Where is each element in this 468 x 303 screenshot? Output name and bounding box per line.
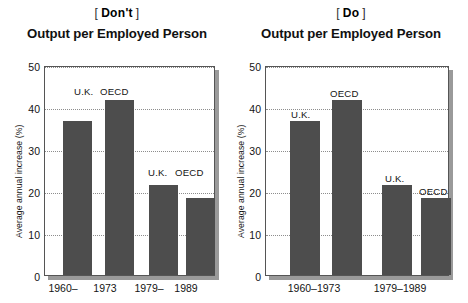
y-tick-0-dont: 0 — [15, 272, 40, 283]
chart-title-do: Output per Employed Person — [234, 26, 468, 41]
panel-dont: [Don't] Output per Employed Person Avera… — [0, 0, 234, 303]
y-axis-title-dont: Average annual increase (%) — [14, 125, 24, 238]
y-tick-10-do: 10 — [236, 230, 261, 241]
bar-shadow — [65, 123, 94, 277]
bar-shadow — [151, 187, 180, 277]
bar-shadow — [423, 200, 453, 277]
tagline-word-dont: Don't — [98, 6, 136, 20]
x-tick-1989-dont: 1989 — [163, 282, 209, 294]
x-tick-1973-dont: 1973 — [82, 282, 128, 294]
series-label-oecd-1979-1989-do: OECD — [419, 186, 448, 197]
series-label-uk-1960-1973-do: U.K. — [291, 109, 310, 120]
y-tick-40-dont: 40 — [15, 104, 40, 115]
bar-shadow — [334, 102, 364, 277]
series-label-uk-group2-dont: U.K. — [148, 167, 167, 178]
bar-shadow — [292, 123, 322, 277]
gridline-50-dont — [45, 67, 214, 68]
chart-title-dont: Output per Employed Person — [0, 26, 234, 41]
bar-shadow — [384, 187, 414, 277]
y-tick-40-do: 40 — [236, 104, 261, 115]
bar-oecd-1979-1989-do — [421, 198, 451, 275]
y-tick-30-do: 30 — [236, 146, 261, 157]
tagline-close-bracket: ] — [362, 6, 366, 20]
y-tick-20-dont: 20 — [15, 188, 40, 199]
bar-shadow — [188, 200, 217, 277]
plot-area-dont: U.K. OECD U.K. OECD — [44, 66, 215, 276]
tagline-close-bracket: ] — [136, 6, 140, 20]
bar-oecd-1960-1973-dont — [105, 100, 134, 275]
panel-do-tagline: [Do] — [234, 6, 468, 20]
y-axis-title-do: Average annual increase (%) — [236, 125, 246, 238]
panel-dont-tagline: [Don't] — [0, 6, 234, 20]
y-tick-50-do: 50 — [236, 62, 261, 73]
x-tick-1960-1973-do: 1960–1973 — [264, 282, 364, 294]
bar-uk-1960-1973-dont — [63, 121, 92, 275]
figure-container: [Don't] Output per Employed Person Avera… — [0, 0, 468, 303]
bar-oecd-1979-1989-dont — [186, 198, 215, 275]
bar-uk-1979-1989-do — [382, 185, 412, 275]
bar-uk-1960-1973-do — [290, 121, 320, 275]
bar-shadow — [107, 102, 136, 277]
series-label-uk-group1-dont: U.K. — [74, 86, 93, 97]
series-label-uk-1979-1989-do: U.K. — [385, 173, 404, 184]
y-tick-50-dont: 50 — [15, 62, 40, 73]
y-tick-0-do: 0 — [236, 272, 261, 283]
x-tick-1979-1989-do: 1979–1989 — [350, 282, 450, 294]
series-label-oecd-group1-dont: OECD — [100, 86, 129, 97]
series-label-oecd-1960-1973-do: OECD — [330, 88, 359, 99]
tagline-word-do: Do — [340, 6, 363, 20]
x-tick-1960-dont: 1960– — [40, 282, 86, 294]
y-tick-10-dont: 10 — [15, 230, 40, 241]
bar-oecd-1960-1973-do — [332, 100, 362, 275]
bar-uk-1979-1989-dont — [149, 185, 178, 275]
gridline-50-do — [266, 67, 448, 68]
y-tick-30-dont: 30 — [15, 146, 40, 157]
plot-area-do: U.K. OECD U.K. OECD — [265, 66, 449, 276]
y-tick-20-do: 20 — [236, 188, 261, 199]
panel-do: [Do] Output per Employed Person Average … — [234, 0, 468, 303]
series-label-oecd-group2-dont: OECD — [175, 167, 204, 178]
